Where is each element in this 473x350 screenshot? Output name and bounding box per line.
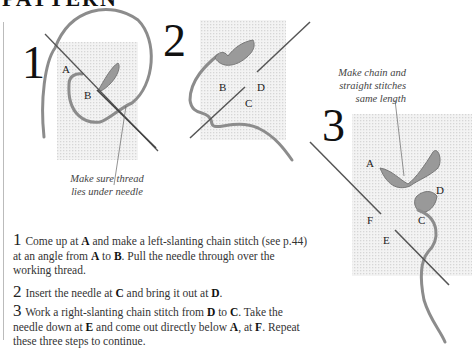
label-a-step3: A — [366, 157, 374, 169]
label-e-step3: E — [383, 234, 390, 246]
step3-caption: Make chain and straight stitches same le… — [320, 66, 406, 105]
step1-illustration — [43, 9, 158, 185]
step2-illustration — [190, 20, 310, 160]
label-d-step2: D — [257, 81, 265, 93]
step1-caption: Make sure thread lies under needle — [42, 172, 172, 198]
label-b-step2: B — [219, 81, 226, 93]
step-number-3: 3 — [322, 103, 345, 149]
label-d-step3: D — [436, 184, 444, 196]
instruction-step-2: 2 Insert the needle at C and bring it ou… — [13, 285, 313, 301]
label-b-step1: B — [84, 89, 91, 101]
label-a-step1: A — [62, 63, 70, 75]
step-number-1: 1 — [22, 40, 45, 86]
instruction-step-3: 3 Work a right-slanting chain stitch fro… — [13, 304, 313, 349]
label-c-step2: C — [245, 97, 252, 109]
label-f-step3: F — [367, 214, 373, 226]
instruction-step-1: 1 Come up at A and make a left-slanting … — [13, 233, 313, 278]
label-c-step3: C — [418, 214, 425, 226]
step-number-2: 2 — [163, 18, 186, 64]
